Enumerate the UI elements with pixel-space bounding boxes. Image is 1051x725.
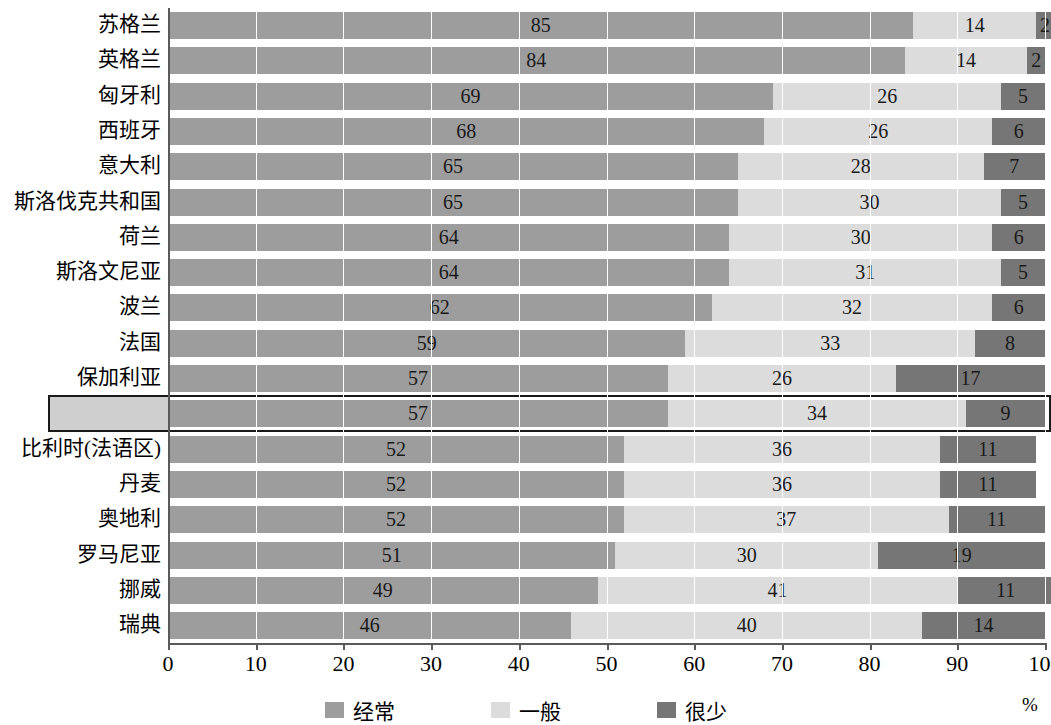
bar-segment-value: 62	[168, 294, 712, 321]
x-axis-tick-label: 0	[163, 651, 174, 677]
bar-segment-value: 64	[168, 259, 729, 286]
bar-row: 挪威494111	[0, 573, 1051, 608]
bar-row: 苏格兰85142	[0, 8, 1051, 43]
bar-row-label: 法国	[119, 326, 168, 361]
bar-row-label: 斯洛文尼亚	[56, 255, 168, 290]
bar-segment: 19	[878, 542, 1045, 569]
bar-segment: 65	[168, 189, 738, 216]
bar-segment-value: 7	[984, 153, 1045, 180]
bar-segment: 41	[598, 577, 958, 604]
legend-item[interactable]: 很少	[657, 695, 727, 725]
bar-segment-value: 5	[1001, 83, 1045, 110]
x-axis-tick	[256, 643, 258, 650]
bar-segment-value: 68	[168, 118, 764, 145]
x-axis-tick-label: 80	[859, 651, 881, 677]
bar-segment-value: 30	[615, 542, 878, 569]
chart-legend: 经常一般很少	[0, 694, 1051, 725]
x-axis-tick-label: 100	[1029, 651, 1051, 677]
bar-segment-value: 6	[992, 294, 1045, 321]
bar-track: 64315	[168, 259, 1045, 286]
bar-segment: 14	[922, 612, 1045, 639]
bar-segment: 40	[571, 612, 922, 639]
bar-segment-value: 36	[624, 436, 940, 463]
bar-segment-value: 14	[913, 12, 1036, 39]
bar-segment: 57	[168, 400, 668, 427]
bar-row-label: 奥地利	[98, 502, 168, 537]
bar-segment-value: 64	[168, 224, 729, 251]
bar-segment: 37	[624, 506, 948, 533]
bar-segment: 14	[905, 47, 1028, 74]
bar-segment: 51	[168, 542, 615, 569]
bar-track: 68266	[168, 118, 1045, 145]
bar-segment: 26	[773, 83, 1001, 110]
bar-segment: 52	[168, 471, 624, 498]
bar-segment-value: 9	[966, 400, 1045, 427]
bar-segment-value: 49	[168, 577, 598, 604]
x-axis-tick-label: 10	[245, 651, 267, 677]
bar-segment: 6	[992, 294, 1045, 321]
bar-row: 英格兰84142	[0, 43, 1051, 78]
legend-item[interactable]: 经常	[325, 695, 395, 725]
bar-row-label: 波兰	[119, 290, 168, 325]
x-axis-tick-label: 60	[683, 651, 705, 677]
x-axis-tick-label: 30	[420, 651, 442, 677]
x-axis-tick	[1045, 643, 1047, 650]
bar-segment: 30	[729, 224, 992, 251]
bar-track: 85142	[168, 12, 1045, 39]
bar-segment: 11	[940, 436, 1036, 463]
bar-track: 59338	[168, 330, 1045, 357]
bar-segment-value: 19	[878, 542, 1045, 569]
bar-track: 494111	[168, 577, 1045, 604]
bar-segment: 6	[992, 224, 1045, 251]
bar-track: 523611	[168, 471, 1045, 498]
bar-segment-value: 57	[168, 400, 668, 427]
bar-segment-value: 17	[896, 365, 1045, 392]
bar-row: 丹麦523611	[0, 467, 1051, 502]
bar-segment-value: 41	[598, 577, 958, 604]
bar-segment: 52	[168, 436, 624, 463]
bar-segment-value: 11	[940, 471, 1036, 498]
bar-segment: 5	[1001, 189, 1045, 216]
bar-segment-value: 2	[1036, 12, 1051, 39]
bar-segment-value: 26	[773, 83, 1001, 110]
bar-row: 匈牙利69265	[0, 79, 1051, 114]
x-axis-tick	[431, 643, 433, 650]
bar-track: 64306	[168, 224, 1045, 251]
bar-segment-value: 28	[738, 153, 984, 180]
bar-segment: 34	[668, 400, 966, 427]
bar-row-label: 斯洛伐克共和国	[14, 185, 168, 220]
bar-segment: 31	[729, 259, 1001, 286]
legend-item-label: 很少	[685, 695, 727, 725]
bar-segment: 30	[738, 189, 1001, 216]
bar-segment-value: 59	[168, 330, 685, 357]
x-axis-tick	[870, 643, 872, 650]
bar-segment-value: 65	[168, 153, 738, 180]
bar-segment: 52	[168, 506, 624, 533]
bar-row-label: 罗马尼亚	[77, 538, 168, 573]
bar-segment-value: 5	[1001, 189, 1045, 216]
bar-segment-value: 34	[668, 400, 966, 427]
bar-segment-value: 84	[168, 47, 905, 74]
bar-segment: 11	[957, 577, 1051, 604]
x-axis-tick	[957, 643, 959, 650]
bar-row-label: 德国	[119, 396, 168, 431]
bar-segment-value: 46	[168, 612, 571, 639]
bar-row: 瑞典464014	[0, 608, 1051, 643]
x-axis-tick-label: 50	[596, 651, 618, 677]
bar-segment-value: 26	[668, 365, 896, 392]
bar-segment: 33	[685, 330, 974, 357]
legend-item[interactable]: 一般	[491, 695, 561, 725]
bar-track: 84142	[168, 47, 1045, 74]
bar-segment-value: 52	[168, 506, 624, 533]
bar-segment-value: 30	[729, 224, 992, 251]
bar-segment-value: 11	[949, 506, 1045, 533]
x-axis-tick	[782, 643, 784, 650]
bar-segment-value: 85	[168, 12, 913, 39]
bar-segment: 57	[168, 365, 668, 392]
bar-segment: 8	[975, 330, 1045, 357]
bar-segment: 49	[168, 577, 598, 604]
bar-track: 513019	[168, 542, 1045, 569]
bar-row: 罗马尼亚513019	[0, 538, 1051, 573]
x-axis-tick	[607, 643, 609, 650]
stacked-bar-chart: 苏格兰85142英格兰84142匈牙利69265西班牙68266意大利65287…	[0, 0, 1051, 655]
